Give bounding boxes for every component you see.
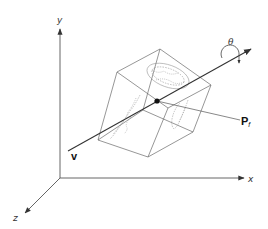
theta-label: θ — [228, 37, 234, 47]
y-axis-label: y — [56, 15, 63, 25]
rotation-axis: v — [68, 49, 251, 162]
z-axis — [25, 178, 60, 213]
rotation-angle: θ — [221, 37, 239, 63]
cube-edge — [98, 72, 117, 140]
z-axis-label: z — [12, 213, 18, 223]
cube-edge-hidden — [143, 110, 193, 132]
cube-edge-hidden — [98, 110, 143, 140]
brain-slice-top — [144, 58, 193, 94]
vector-v-label: v — [71, 150, 78, 162]
cube-edge — [148, 108, 168, 157]
cube-bottom-face — [98, 132, 193, 157]
x-axis-label: x — [247, 174, 254, 184]
cube-edge — [193, 85, 211, 132]
vector-v — [68, 49, 251, 151]
coordinate-axes: y x z — [12, 15, 254, 223]
pf-point — [154, 98, 159, 103]
volume-texture — [110, 58, 192, 139]
pf-label: Pf — [241, 115, 251, 128]
point-pf: Pf — [154, 98, 251, 128]
cube-top-face — [117, 49, 211, 108]
rotation-diagram: y x z v Pf — [0, 0, 268, 229]
